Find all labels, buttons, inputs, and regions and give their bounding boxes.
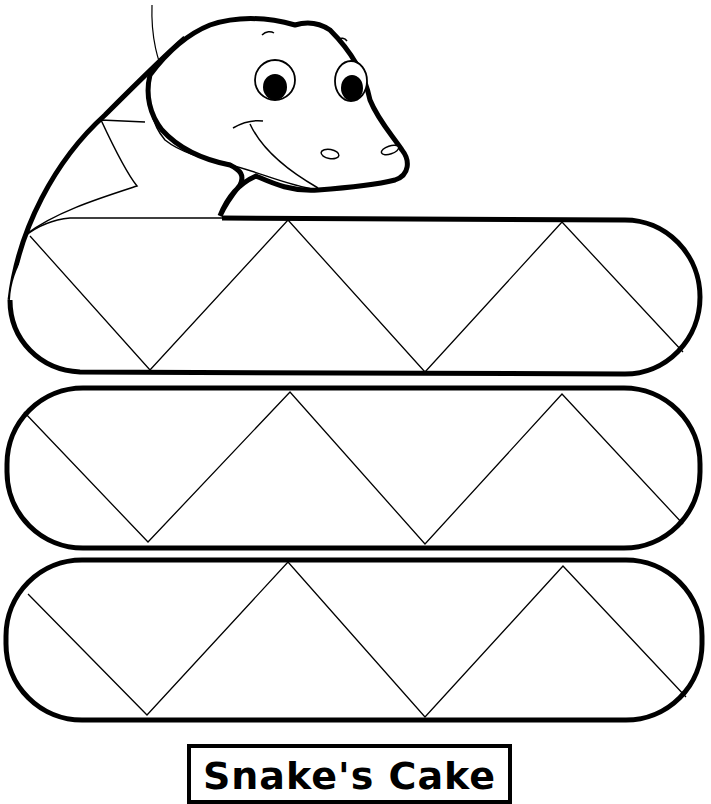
title-label: Snake's Cake [203, 754, 496, 798]
body-band-2 [7, 388, 700, 548]
title-label-box: Snake's Cake [187, 744, 512, 804]
pupil-left [263, 74, 287, 100]
body-band-1 [10, 218, 700, 374]
body-band-3 [6, 560, 702, 720]
pupil-right [341, 75, 363, 101]
